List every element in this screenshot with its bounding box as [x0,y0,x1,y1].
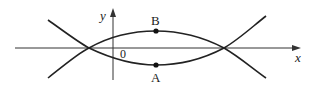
diagram: y x 0 B A [0,0,312,86]
origin-label: 0 [120,48,126,60]
point-b-label: B [151,14,160,27]
y-axis-label: y [100,9,106,22]
x-axis-label: x [295,51,301,64]
y-axis-arrow-icon [110,8,116,17]
point-a [153,62,158,67]
point-a-label: A [151,71,160,84]
point-b [153,28,158,33]
